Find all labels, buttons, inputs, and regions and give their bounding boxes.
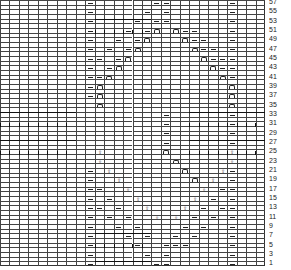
purl-dash-icon — [88, 3, 93, 4]
purl-dash-icon — [230, 21, 235, 22]
cable-crossing-symbol — [0, 112, 76, 117]
purl-dash-icon — [88, 264, 93, 265]
purl-dash-icon — [220, 208, 225, 209]
purl-dash-icon — [230, 208, 235, 209]
row-number: 7 — [269, 231, 273, 239]
purl-dash-icon — [201, 208, 206, 209]
purl-dash-icon — [230, 245, 235, 246]
row-number: 3 — [269, 250, 273, 258]
chart-cell — [38, 261, 47, 266]
purl-dash-icon — [192, 40, 197, 41]
chart-cell — [0, 261, 9, 266]
knitting-chart-grid: ⇪⇪⇪⇪⇪⇪⇪⇪⇪⇪⇪⇪⇪⇪⇪⇪ — [0, 0, 265, 266]
row-number: 53 — [269, 17, 277, 25]
row-number: 37 — [269, 91, 277, 99]
purl-dash-icon — [230, 171, 235, 172]
purl-dash-icon — [88, 199, 93, 200]
row-number: 9 — [269, 222, 273, 230]
purl-dash-icon — [145, 255, 150, 256]
purl-dash-icon — [201, 40, 206, 41]
row-number: 27 — [269, 138, 277, 146]
purl-dash-icon — [230, 217, 235, 218]
purl-dash-icon — [164, 143, 169, 144]
purl-dash-icon — [164, 245, 169, 246]
purl-dash-icon — [201, 227, 206, 228]
row-number: 15 — [269, 194, 277, 202]
purl-dash-icon — [88, 12, 93, 13]
chart-cell — [208, 261, 217, 266]
cable-crossing-symbol — [189, 140, 265, 145]
chart-cell — [9, 261, 18, 266]
purl-dash-icon — [88, 217, 93, 218]
row-number: 25 — [269, 147, 277, 155]
row-number: 43 — [269, 63, 277, 71]
purl-dash-icon — [97, 189, 102, 190]
purl-dash-icon — [97, 59, 102, 60]
purl-dash-icon — [183, 31, 188, 32]
purl-dash-icon — [211, 199, 216, 200]
row-number: 17 — [269, 185, 277, 193]
purl-dash-icon — [173, 245, 178, 246]
chart-cell — [218, 261, 227, 266]
row-number: 19 — [269, 175, 277, 183]
chart-cell — [199, 261, 208, 266]
chart-cell — [76, 261, 85, 266]
row-number: 23 — [269, 157, 277, 165]
purl-dash-icon — [88, 245, 93, 246]
purl-dash-icon — [88, 31, 93, 32]
purl-dash-icon — [230, 31, 235, 32]
row-number: 29 — [269, 129, 277, 137]
row-number: 31 — [269, 119, 277, 127]
purl-dash-icon — [107, 49, 112, 50]
row-number: 47 — [269, 45, 277, 53]
purl-dash-icon — [183, 245, 188, 246]
purl-dash-icon — [230, 77, 235, 78]
purl-dash-icon — [230, 40, 235, 41]
purl-dash-icon — [154, 264, 159, 265]
chart-cell — [19, 261, 28, 266]
purl-dash-icon — [88, 59, 93, 60]
purl-dash-icon — [230, 59, 235, 60]
chart-cell — [256, 261, 265, 266]
row-number: 33 — [269, 110, 277, 118]
purl-dash-icon — [135, 245, 140, 246]
row-number: 49 — [269, 35, 277, 43]
purl-dash-icon — [164, 124, 169, 125]
purl-dash-icon — [211, 49, 216, 50]
purl-dash-icon — [107, 217, 112, 218]
purl-dash-icon — [230, 124, 235, 125]
chart-cell — [151, 261, 160, 266]
cable-crossing-symbol — [0, 140, 76, 145]
purl-dash-icon — [88, 96, 93, 97]
chart-cell — [237, 261, 246, 266]
chart-cell — [227, 261, 236, 266]
row-number: 51 — [269, 26, 277, 34]
purl-dash-icon — [173, 236, 178, 237]
purl-dash-icon — [107, 68, 112, 69]
row-number: 11 — [269, 213, 276, 221]
purl-dash-icon — [88, 180, 93, 181]
purl-dash-icon — [88, 171, 93, 172]
purl-dash-icon — [126, 49, 131, 50]
cable-crossing-symbol — [95, 261, 152, 266]
purl-dash-icon — [154, 3, 159, 4]
chart-cell — [57, 261, 66, 266]
purl-dash-icon — [164, 264, 169, 265]
purl-dash-icon — [126, 217, 131, 218]
purl-dash-icon — [230, 264, 235, 265]
cable-crossing-symbol — [95, 19, 152, 24]
purl-dash-icon — [88, 87, 93, 88]
purl-dash-icon — [230, 3, 235, 4]
row-number: 35 — [269, 101, 277, 109]
chart-cell — [47, 261, 56, 266]
chart-cell — [180, 261, 189, 266]
row-number: 57 — [269, 0, 277, 6]
purl-dash-icon — [192, 217, 197, 218]
purl-dash-icon — [230, 68, 235, 69]
purl-dash-icon — [135, 227, 140, 228]
purl-dash-icon — [230, 199, 235, 200]
purl-dash-icon — [230, 236, 235, 237]
purl-dash-icon — [230, 255, 235, 256]
purl-dash-icon — [88, 208, 93, 209]
purl-dash-icon — [88, 68, 93, 69]
